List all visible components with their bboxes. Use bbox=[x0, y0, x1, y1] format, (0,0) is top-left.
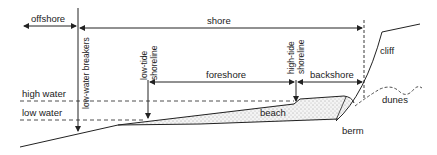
label-berm: berm bbox=[342, 125, 364, 136]
label-high-water: high water bbox=[22, 88, 66, 99]
label-low-tide-line1: low-tide bbox=[139, 50, 149, 80]
label-offshore: offshore bbox=[31, 13, 65, 24]
label-low-water-breakers: low-water breakers bbox=[81, 37, 91, 109]
label-high-tide-line1: high-tide bbox=[286, 41, 296, 74]
label-backshore: backshore bbox=[310, 69, 354, 80]
label-low-tide-line2: shoreline bbox=[149, 45, 159, 80]
label-dunes: dunes bbox=[382, 94, 408, 105]
label-foreshore: foreshore bbox=[206, 69, 246, 80]
label-low-water: low water bbox=[22, 107, 62, 118]
beach-profile-diagram: offshore shore foreshore backshore high … bbox=[0, 0, 437, 155]
label-cliff: cliff bbox=[380, 45, 394, 56]
label-beach: beach bbox=[260, 107, 286, 118]
label-high-tide-line2: shoreline bbox=[296, 39, 306, 74]
label-shore: shore bbox=[207, 15, 231, 26]
